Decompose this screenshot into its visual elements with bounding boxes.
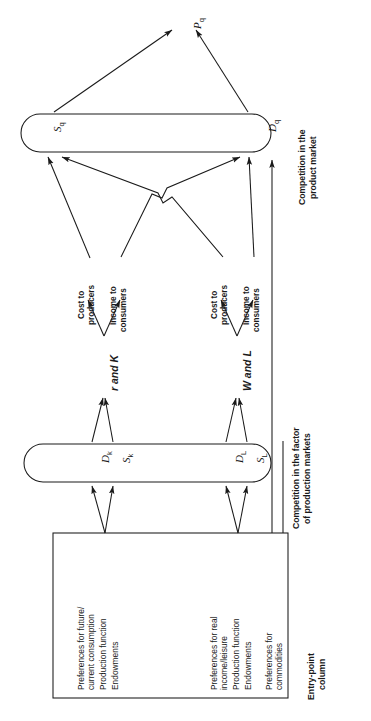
entry-item-production-function-k: Production function [99, 618, 109, 690]
capital-cost-label-line2: producers [87, 285, 97, 325]
product-market-caption-line2: product market [308, 136, 318, 199]
product-market-caption-line1: Competition in the [297, 130, 307, 205]
entry-point-column-caption-line2: column [317, 659, 327, 690]
labour-income-to-demand [249, 157, 254, 257]
factor-market-caption-line1: Competition in the factor [291, 427, 301, 529]
product-demand-label: Dq [253, 120, 295, 143]
price-node-label: Pq [178, 18, 220, 40]
factor-market-caption-line2: of production markets [302, 433, 312, 524]
labour-variable-label: W and L [241, 350, 253, 391]
labour-cost-label-line1: Cost to [210, 291, 220, 319]
capital-variable-label: r and K [108, 355, 120, 391]
entry-point-column-caption-line1: Entry-point [306, 653, 316, 700]
labour-income-label-line2: consumers [252, 288, 262, 332]
diagram-canvas: Pq Sq Dq Competition in the product mark… [0, 0, 371, 721]
capital-income-label-line2: consumers [119, 288, 129, 332]
capital-cost-to-supply [48, 157, 90, 258]
labour-supply-label: SL [241, 453, 283, 474]
entry-item-endowments-l: Endowments [244, 642, 254, 690]
product-supply-label: Sq [38, 122, 80, 143]
labour-income-label-line1: Income to [242, 286, 252, 325]
capital-income-label-line1: Income to [109, 286, 119, 325]
labour-cost-to-supply [62, 157, 223, 257]
price-arrows [54, 30, 248, 112]
diagram-linework [0, 0, 371, 721]
entry-item-endowments-k: Endowments [111, 642, 121, 690]
capital-cost-label-line1: Cost to [77, 291, 87, 319]
entry-item-pref-commodities: Preferences forcommodities [265, 633, 285, 690]
entry-item-production-function-l: Production function [232, 618, 242, 690]
labour-cost-label-line2: producers [220, 285, 230, 325]
entry-item-pref-real-income-leisure: Preferences for realincome/leisure [210, 616, 230, 690]
capital-supply-label: Sk [107, 454, 149, 474]
entry-item-pref-future-consumption: Preferences for future/current consumpti… [77, 607, 97, 690]
